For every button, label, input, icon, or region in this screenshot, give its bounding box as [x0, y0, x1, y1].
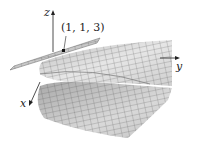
- point-label: (1, 1, 3): [61, 21, 105, 34]
- x-axis-label: x: [20, 97, 27, 110]
- surface-diagram: z y x (1, 1, 3): [0, 0, 197, 147]
- point-leader-line: [64, 36, 66, 49]
- upper-sheet: [39, 40, 172, 86]
- z-axis: [51, 10, 55, 52]
- z-axis-label: z: [43, 6, 50, 19]
- lower-sheet: [38, 81, 172, 138]
- tangent-point-marker: [62, 49, 65, 52]
- y-axis-label: y: [175, 60, 183, 73]
